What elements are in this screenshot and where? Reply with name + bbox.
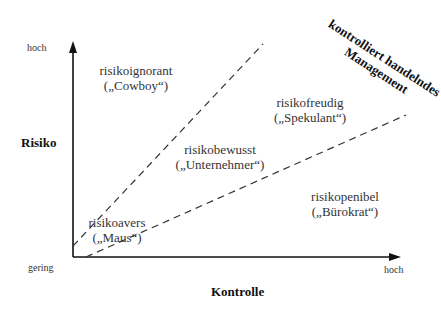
region-alias: („Unternehmer“)	[165, 158, 275, 173]
region-alias: („Spekulant“)	[260, 111, 360, 126]
y-axis-title: Risiko	[21, 136, 56, 151]
x-axis-title: Kontrolle	[211, 285, 264, 300]
y-axis-arrow-icon	[69, 41, 77, 53]
y-axis-low-label: gering	[28, 262, 54, 274]
region-risikobewusst: risikobewusst („Unternehmer“)	[165, 143, 275, 173]
region-name: risikopenibel	[295, 190, 395, 205]
x-axis-arrow-icon	[389, 253, 401, 261]
region-risikoavers: risikoavers („Maus“)	[72, 216, 162, 246]
region-risikofreudig: risikofreudig („Spekulant“)	[260, 96, 360, 126]
x-axis-high-label: hoch	[384, 264, 403, 276]
region-name: risikoavers	[72, 216, 162, 231]
region-risikopenibel: risikopenibel („Bürokrat“)	[295, 190, 395, 220]
region-name: risikoignorant	[86, 64, 186, 79]
region-alias: („Bürokrat“)	[295, 205, 395, 220]
region-alias: („Cowboy“)	[86, 79, 186, 94]
region-alias: („Maus“)	[72, 231, 162, 246]
region-name: risikobewusst	[165, 143, 275, 158]
region-name: risikofreudig	[260, 96, 360, 111]
y-axis-high-label: hoch	[27, 42, 46, 54]
region-risikoignorant: risikoignorant („Cowboy“)	[86, 64, 186, 94]
